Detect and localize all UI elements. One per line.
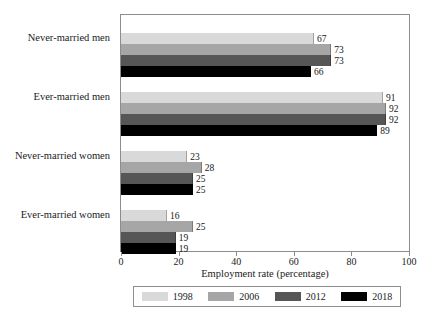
- bar: [121, 92, 383, 103]
- legend-item-1998[interactable]: 1998: [142, 291, 193, 302]
- legend-swatch-icon-2012: [275, 292, 301, 301]
- x-axis-title: Employment rate (percentage): [120, 268, 410, 280]
- bar: [121, 173, 193, 184]
- legend: 1998 2006 2012 2018: [133, 286, 401, 307]
- bar-value-label: 91: [386, 93, 396, 103]
- plot-area: 67737366919292892328252516251919: [120, 14, 410, 252]
- bar: [121, 103, 386, 114]
- category-label-ever-married-men: Ever-married men: [0, 91, 110, 102]
- x-tick-label: 0: [119, 256, 124, 267]
- legend-label-2012: 2012: [306, 291, 326, 302]
- bar: [121, 232, 176, 243]
- legend-label-1998: 1998: [173, 291, 193, 302]
- legend-item-2006[interactable]: 2006: [208, 291, 259, 302]
- bar-value-label: 92: [389, 115, 399, 125]
- category-label-never-married-women: Never-married women: [0, 150, 110, 161]
- bar-value-label: 73: [334, 56, 344, 66]
- bar: [121, 66, 311, 77]
- bar-value-label: 67: [317, 34, 327, 44]
- bar-value-label: 28: [205, 163, 215, 173]
- bar: [121, 184, 193, 195]
- bar-value-label: 25: [196, 185, 206, 195]
- legend-swatch-icon-2006: [208, 292, 234, 301]
- bar: [121, 33, 314, 44]
- x-tick-label: 40: [231, 256, 241, 267]
- bar-value-label: 19: [179, 233, 189, 243]
- bar-value-label: 25: [196, 222, 206, 232]
- category-label-never-married-men: Never-married men: [0, 32, 110, 43]
- bar: [121, 221, 193, 232]
- bar-value-label: 16: [170, 211, 180, 221]
- bar-value-label: 92: [389, 104, 399, 114]
- x-axis-ticks: 020406080100: [120, 252, 410, 257]
- bar-value-label: 73: [334, 45, 344, 55]
- bar-value-label: 25: [196, 174, 206, 184]
- bar-chart: Never-married men Ever-married men Never…: [0, 0, 429, 321]
- bar: [121, 210, 167, 221]
- legend-swatch-icon-2018: [341, 292, 367, 301]
- category-label-ever-married-women: Ever-married women: [0, 209, 110, 220]
- bar: [121, 151, 187, 162]
- legend-item-2012[interactable]: 2012: [275, 291, 326, 302]
- legend-label-2006: 2006: [239, 291, 259, 302]
- bar: [121, 44, 331, 55]
- legend-label-2018: 2018: [372, 291, 392, 302]
- legend-swatch-icon-1998: [142, 292, 168, 301]
- x-tick-label: 100: [402, 256, 417, 267]
- bar-value-label: 66: [314, 67, 324, 77]
- bars-layer: 67737366919292892328252516251919: [121, 15, 409, 251]
- x-tick-label: 80: [346, 256, 356, 267]
- bar-value-label: 23: [190, 152, 200, 162]
- bar: [121, 55, 331, 66]
- bar-value-label: 89: [380, 126, 390, 136]
- bar: [121, 162, 202, 173]
- bar: [121, 114, 386, 125]
- category-axis-labels: Never-married men Ever-married men Never…: [0, 14, 115, 252]
- x-tick-label: 20: [174, 256, 184, 267]
- x-tick-label: 60: [289, 256, 299, 267]
- bar: [121, 125, 377, 136]
- legend-item-2018[interactable]: 2018: [341, 291, 392, 302]
